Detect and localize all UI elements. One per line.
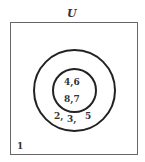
outer-element: 5 xyxy=(85,111,91,121)
outside-element: 1 xyxy=(17,141,23,151)
inner-elements-line1: 4,6 xyxy=(64,77,80,87)
inner-elements-line2: 8,7 xyxy=(64,94,80,104)
outer-element: 3, xyxy=(67,114,76,124)
universe-label: U xyxy=(67,7,77,20)
inner-set-circle xyxy=(52,68,97,113)
outer-element: 2, xyxy=(54,111,63,121)
